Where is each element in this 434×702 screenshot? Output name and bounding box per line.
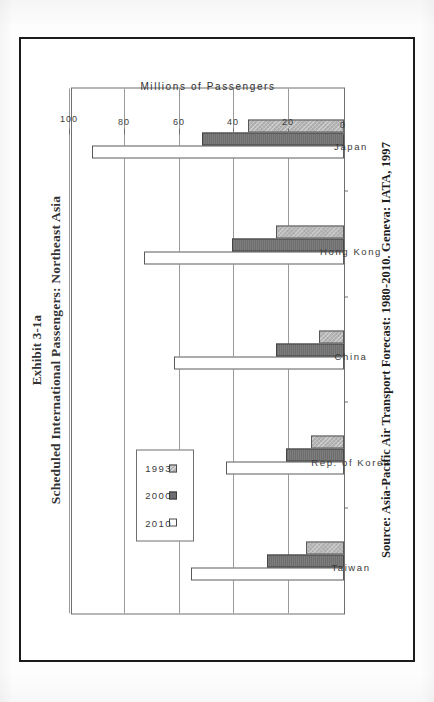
- gridline-100: [69, 88, 70, 613]
- category-label-hong-kong: Hong Kong: [320, 245, 382, 256]
- category-separator: [344, 507, 348, 508]
- category-label-japan: Japan: [334, 140, 368, 151]
- value-axis-tick-80: 80: [119, 94, 129, 128]
- value-axis-tick-60: 60: [174, 94, 184, 128]
- legend-item: 2000: [153, 482, 177, 509]
- chart-legend: 201020001993: [136, 449, 194, 541]
- tick-mark: [124, 128, 125, 134]
- value-axis-tick-0: 0: [338, 94, 348, 128]
- plot-area: 201020001993: [71, 87, 345, 614]
- value-axis-tick-20: 20: [283, 94, 293, 128]
- legend-label-1993: 1993: [145, 462, 172, 473]
- legend-label-2010: 2010: [145, 517, 172, 528]
- category-separator: [344, 190, 348, 191]
- value-axis-tick-label: 0: [340, 120, 346, 130]
- tick-mark: [179, 128, 180, 134]
- title-block: Exhibit 3-1a Scheduled International Pas…: [27, 37, 65, 662]
- value-axis-tick-40: 40: [228, 94, 238, 128]
- page-title: Scheduled International Passengers: Nort…: [46, 37, 65, 662]
- category-label-china: China: [335, 351, 368, 362]
- figure-landscape-canvas: Exhibit 3-1a Scheduled International Pas…: [19, 37, 415, 662]
- exhibit-number: Exhibit 3-1a: [27, 37, 46, 662]
- scanned-page: Exhibit 3-1a Scheduled International Pas…: [0, 0, 434, 702]
- value-axis-title-text: Millions of Passengers: [140, 81, 275, 92]
- legend-item: 2010: [153, 509, 177, 536]
- category-separator: [344, 296, 348, 297]
- value-axis-title: Millions of Passengers: [71, 76, 345, 96]
- value-axis-tick-label: 100: [60, 114, 78, 124]
- tick-mark: [288, 128, 289, 134]
- tick-mark: [69, 128, 70, 134]
- legend-label-2000: 2000: [145, 490, 172, 501]
- category-separator-layer: [72, 88, 344, 613]
- value-axis-tick-label: 20: [282, 117, 294, 127]
- value-axis-tick-label: 80: [118, 117, 130, 127]
- legend-item: 1993: [153, 454, 177, 481]
- value-axis-tick-label: 60: [173, 117, 185, 127]
- category-label-taiwan: Taiwan: [331, 561, 370, 572]
- value-axis-tick-label: 40: [227, 117, 239, 127]
- category-separator: [344, 401, 348, 402]
- value-axis-tick-100: 100: [64, 94, 74, 128]
- source-note: Source: Asia-Pacific Air Transport Forec…: [379, 37, 394, 662]
- rotated-figure-container: Exhibit 3-1a Scheduled International Pas…: [19, 37, 415, 662]
- tick-mark: [233, 128, 234, 134]
